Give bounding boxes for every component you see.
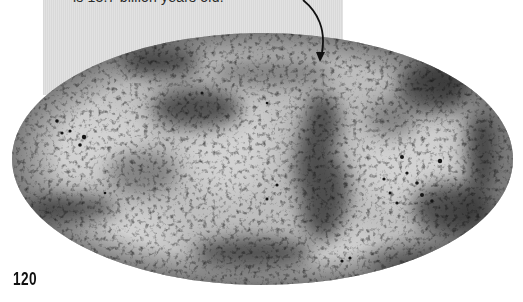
sky-map-figure — [12, 33, 513, 285]
caption-text: is 13.7 billion years old. — [73, 0, 224, 5]
page-number: 120 — [13, 268, 37, 290]
sky-map-texture — [12, 33, 513, 285]
